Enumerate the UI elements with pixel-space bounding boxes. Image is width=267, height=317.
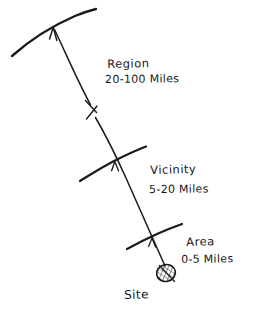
vicinity-label: Vicinity xyxy=(150,162,196,178)
radial-distance-line-upper xyxy=(55,30,91,105)
region-label: Region xyxy=(107,56,150,72)
diagram-canvas: Region 20-100 Miles Vicinity 5-20 Miles … xyxy=(0,0,267,317)
line-break-mark xyxy=(86,101,98,120)
area-range-label: 0-5 Miles xyxy=(181,251,233,267)
site-label: Site xyxy=(124,287,149,303)
vicinity-range-label: 5-20 Miles xyxy=(149,181,209,197)
area-label: Area xyxy=(186,234,215,250)
diagram-sketch-layer xyxy=(0,0,267,317)
region-range-label: 20-100 Miles xyxy=(105,71,179,87)
